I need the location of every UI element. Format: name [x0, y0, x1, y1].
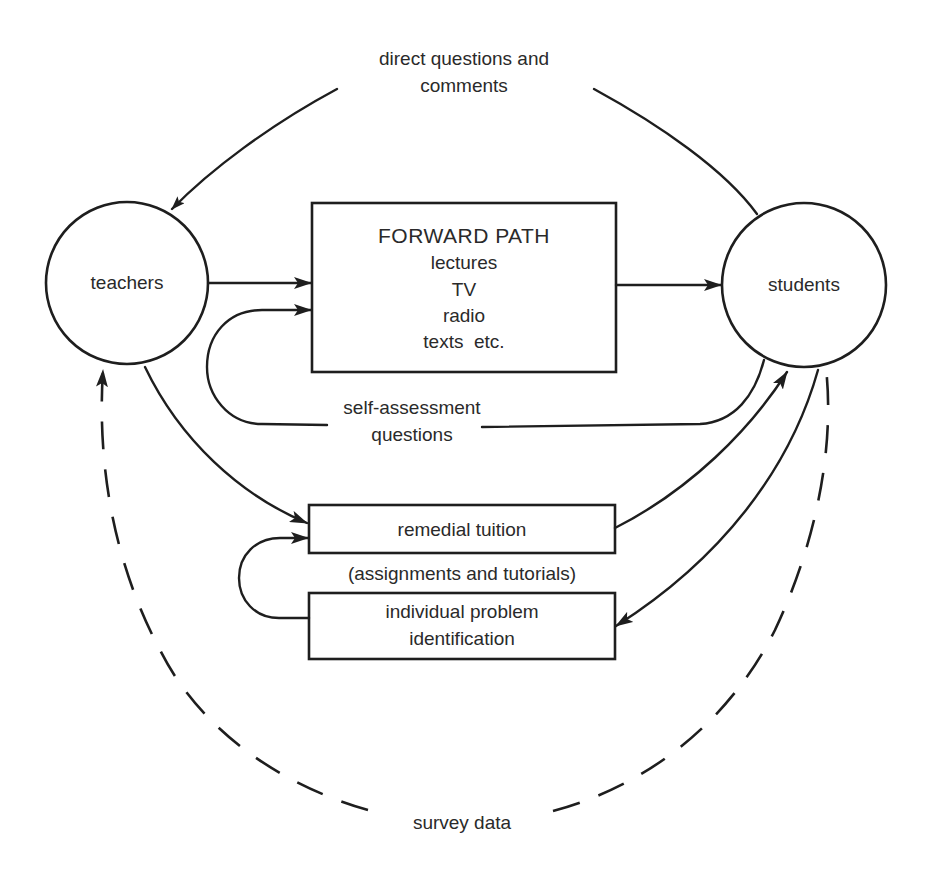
feedback-diagram: direct questions and comments teachers s… [0, 0, 934, 878]
edge-students-to-individual [616, 370, 818, 626]
forward-path-item-radio: radio [443, 305, 485, 326]
survey-data-dashed-right [553, 368, 828, 811]
edge-direct-questions: direct questions and comments [172, 48, 757, 214]
direct-questions-arc-right [594, 89, 757, 214]
self-assessment-line-left [207, 310, 327, 425]
forward-path-item-lectures: lectures [431, 252, 498, 273]
direct-questions-label-line1: direct questions and [379, 48, 549, 69]
node-teachers: teachers [46, 202, 208, 364]
edge-individual-to-remedial [239, 538, 309, 618]
direct-questions-arc-left [172, 89, 337, 209]
node-forward-path: FORWARD PATH lectures TV radio texts etc… [312, 203, 616, 372]
edge-remedial-to-students [615, 372, 787, 528]
node-remedial-tuition: remedial tuition [309, 505, 615, 553]
self-assessment-label-line2: questions [371, 424, 452, 445]
survey-data-dashed-left [102, 370, 368, 810]
individual-problem-label-line1: individual problem [385, 601, 538, 622]
forward-path-title: FORWARD PATH [378, 224, 550, 247]
assignments-tutorials-label: (assignments and tutorials) [348, 563, 576, 584]
edge-teachers-to-remedial [145, 367, 307, 523]
node-students: students [722, 203, 886, 367]
direct-questions-label-line2: comments [420, 75, 508, 96]
self-assessment-label-line1: self-assessment [343, 397, 481, 418]
students-label: students [768, 274, 840, 295]
forward-path-item-texts: texts etc. [423, 331, 504, 352]
survey-data-label: survey data [413, 812, 512, 833]
forward-path-item-tv: TV [452, 279, 477, 300]
node-individual-problem: individual problem identification [309, 593, 615, 659]
teachers-label: teachers [91, 272, 164, 293]
remedial-tuition-label: remedial tuition [398, 519, 527, 540]
individual-problem-label-line2: identification [409, 628, 515, 649]
